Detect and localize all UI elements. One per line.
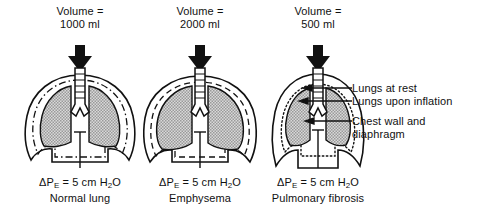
lung-compliance-figure: Volume = 1000 ml <box>0 0 480 222</box>
annotation-text: Lungs at rest <box>352 82 417 94</box>
leader-arrow-lungs-upon-inflation <box>299 98 308 104</box>
leader-arrow-lungs-at-rest <box>303 85 312 91</box>
annotation-text: Chest wall and <box>352 115 426 127</box>
annotation-text: Lungs upon inflation <box>352 95 452 107</box>
annotation-lungs-upon-inflation: Lungs upon inflation <box>352 95 452 108</box>
annotation-lungs-at-rest: Lungs at rest <box>352 82 417 95</box>
annotation-list: Lungs at rest Lungs upon inflation Chest… <box>352 0 480 222</box>
annotation-text-line2: diaphragm <box>352 128 426 141</box>
leader-arrow-chest-wall <box>305 118 314 124</box>
annotation-chest-wall-and-diaphragm: Chest wall and diaphragm <box>352 115 426 141</box>
